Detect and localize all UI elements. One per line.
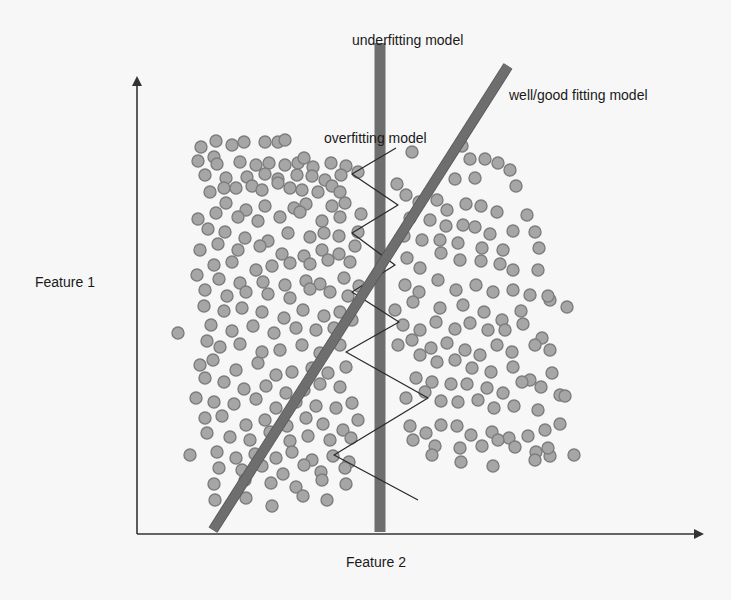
data-point bbox=[195, 141, 207, 153]
data-point bbox=[221, 290, 233, 302]
data-point bbox=[270, 452, 282, 464]
overfitting-model-label: overfitting model bbox=[324, 130, 427, 146]
data-point bbox=[209, 494, 221, 506]
data-point bbox=[213, 273, 225, 285]
data-point bbox=[406, 146, 418, 158]
data-point bbox=[218, 305, 230, 317]
data-point bbox=[391, 178, 403, 190]
data-point bbox=[524, 289, 536, 301]
data-point bbox=[507, 264, 519, 276]
data-point bbox=[259, 136, 271, 148]
data-point bbox=[211, 158, 223, 170]
data-point bbox=[274, 344, 286, 356]
data-point bbox=[172, 327, 184, 339]
data-point bbox=[406, 334, 418, 346]
data-point bbox=[339, 197, 351, 209]
data-point bbox=[435, 395, 447, 407]
data-point bbox=[218, 376, 230, 388]
data-point bbox=[475, 255, 487, 267]
data-point bbox=[322, 367, 334, 379]
data-point bbox=[509, 441, 521, 453]
data-point bbox=[431, 356, 443, 368]
data-point bbox=[434, 234, 446, 246]
data-point bbox=[314, 378, 326, 390]
data-point bbox=[224, 431, 236, 443]
data-point bbox=[316, 215, 328, 227]
data-point bbox=[284, 257, 296, 269]
data-point bbox=[190, 392, 202, 404]
data-point bbox=[487, 460, 499, 472]
y-axis-label: Feature 1 bbox=[35, 274, 95, 290]
x-axis-label: Feature 2 bbox=[346, 554, 406, 570]
data-point bbox=[192, 155, 204, 167]
data-point bbox=[400, 392, 412, 404]
data-point bbox=[352, 414, 364, 426]
data-point bbox=[232, 244, 244, 256]
data-point bbox=[238, 383, 250, 395]
data-point bbox=[236, 302, 248, 314]
data-point bbox=[298, 459, 310, 471]
data-point bbox=[199, 412, 211, 424]
data-point bbox=[399, 279, 411, 291]
data-point bbox=[208, 259, 220, 271]
data-point bbox=[294, 206, 306, 218]
data-point bbox=[270, 369, 282, 381]
data-point bbox=[191, 269, 203, 281]
data-point bbox=[277, 468, 289, 480]
data-point bbox=[297, 304, 309, 316]
data-point bbox=[286, 446, 298, 458]
data-point bbox=[476, 440, 488, 452]
data-point bbox=[535, 381, 547, 393]
data-point bbox=[256, 306, 268, 318]
data-point bbox=[510, 180, 522, 192]
data-point bbox=[454, 254, 466, 266]
data-point bbox=[304, 258, 316, 270]
data-point bbox=[325, 157, 337, 169]
data-point bbox=[452, 237, 464, 249]
data-point bbox=[321, 494, 333, 506]
data-point bbox=[317, 418, 329, 430]
data-point bbox=[210, 207, 222, 219]
data-point bbox=[472, 394, 484, 406]
data-point bbox=[349, 240, 361, 252]
data-point bbox=[435, 419, 447, 431]
data-point bbox=[280, 387, 292, 399]
data-point bbox=[284, 292, 296, 304]
data-point bbox=[266, 260, 278, 272]
data-point bbox=[334, 381, 346, 393]
data-point bbox=[330, 402, 342, 414]
data-point bbox=[546, 367, 558, 379]
data-point bbox=[554, 418, 566, 430]
data-point bbox=[482, 324, 494, 336]
data-point bbox=[219, 226, 231, 238]
data-point bbox=[234, 156, 246, 168]
data-point bbox=[279, 159, 291, 171]
data-point bbox=[561, 301, 573, 313]
data-point bbox=[272, 177, 284, 189]
data-point bbox=[304, 231, 316, 243]
data-point bbox=[426, 449, 438, 461]
data-point bbox=[306, 170, 318, 182]
data-point bbox=[515, 305, 527, 317]
data-point bbox=[494, 258, 506, 270]
data-point bbox=[202, 223, 214, 235]
data-point bbox=[230, 364, 242, 376]
data-point bbox=[234, 338, 246, 350]
data-point bbox=[298, 152, 310, 164]
data-point bbox=[568, 449, 580, 461]
data-point bbox=[424, 214, 436, 226]
data-point bbox=[464, 317, 476, 329]
data-point bbox=[240, 419, 252, 431]
data-point bbox=[334, 211, 346, 223]
data-point bbox=[310, 324, 322, 336]
data-point bbox=[533, 242, 545, 254]
data-point bbox=[507, 284, 519, 296]
data-point bbox=[464, 153, 476, 165]
data-point bbox=[238, 136, 250, 148]
data-point bbox=[410, 372, 422, 384]
data-point bbox=[420, 427, 432, 439]
data-point bbox=[263, 157, 275, 169]
data-point bbox=[259, 414, 271, 426]
data-point bbox=[340, 361, 352, 373]
data-point bbox=[407, 296, 419, 308]
